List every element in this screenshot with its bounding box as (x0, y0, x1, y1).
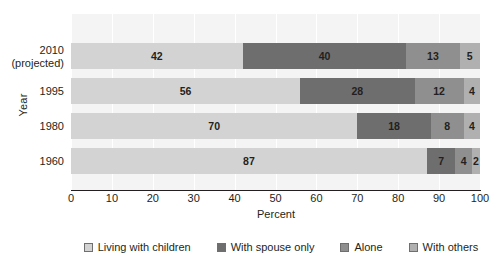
y-axis-tick-labels: 2010(projected)199519801960 (0, 40, 68, 190)
bar-value-label: 18 (388, 121, 400, 132)
bar-value-label: 2 (473, 156, 479, 167)
y-axis-tick-sublabel: (projected) (0, 57, 64, 70)
x-axis-tick-label: 100 (460, 192, 500, 204)
x-axis-title: Percent (71, 208, 481, 220)
x-axis-tick-label: 20 (133, 192, 173, 204)
x-axis-tick-label: 40 (215, 192, 255, 204)
bar-row: 5628124 (71, 78, 480, 104)
x-axis-tick-label: 10 (92, 192, 132, 204)
x-axis-tick-labels: 0102030405060708090100 (71, 192, 481, 208)
bar-segment: 8 (431, 113, 464, 139)
x-axis-line (71, 190, 481, 191)
bar-segment: 5 (460, 43, 480, 69)
y-axis-tick-label: 2010(projected) (0, 44, 64, 69)
bar-value-label: 5 (467, 51, 473, 62)
bar-segment: 70 (71, 113, 357, 139)
bar-segment: 4 (464, 78, 480, 104)
bar-segment: 56 (71, 78, 300, 104)
y-axis-tick-label: 1995 (0, 85, 64, 98)
y-axis-tick-label: 1980 (0, 120, 64, 133)
legend-item[interactable]: With others (409, 241, 479, 253)
bar-value-label: 87 (243, 156, 255, 167)
y-axis-tick-label: 1960 (0, 155, 64, 168)
x-axis-tick-label: 50 (256, 192, 296, 204)
bar-value-label: 13 (427, 51, 439, 62)
legend-swatch-icon (409, 243, 418, 252)
x-axis-tick-label: 90 (419, 192, 459, 204)
legend-label: Living with children (98, 241, 191, 253)
bar-segment: 40 (243, 43, 407, 69)
bar-value-label: 12 (433, 86, 445, 97)
bar-value-label: 70 (208, 121, 220, 132)
bar-value-label: 40 (319, 51, 331, 62)
stacked-bar-chart: Year 2010(projected)199519801960 4240135… (0, 0, 503, 266)
bar-value-label: 56 (180, 86, 192, 97)
bar-segment: 18 (357, 113, 431, 139)
bar-segment: 2 (472, 148, 480, 174)
x-axis-tick-label: 0 (51, 192, 91, 204)
bar-segment: 87 (71, 148, 427, 174)
legend-label: With spouse only (231, 241, 315, 253)
bar-value-label: 4 (461, 156, 467, 167)
legend-label: With others (423, 241, 479, 253)
bar-value-label: 42 (151, 51, 163, 62)
bar-segment: 4 (464, 113, 480, 139)
bar-value-label: 4 (469, 86, 475, 97)
legend-swatch-icon (340, 243, 349, 252)
legend-swatch-icon (217, 243, 226, 252)
x-axis-tick-label: 70 (337, 192, 377, 204)
bar-value-label: 8 (444, 121, 450, 132)
x-axis-tick-label: 30 (174, 192, 214, 204)
bar-segment: 28 (300, 78, 415, 104)
bar-value-label: 4 (469, 121, 475, 132)
bar-segment: 4 (455, 148, 471, 174)
bar-segment: 7 (427, 148, 456, 174)
bar-row: 87742 (71, 148, 480, 174)
x-axis-tick-label: 60 (296, 192, 336, 204)
legend-item[interactable]: Alone (340, 241, 382, 253)
bar-value-label: 7 (438, 156, 444, 167)
chart-legend: Living with childrenWith spouse onlyAlon… (71, 238, 491, 256)
legend-item[interactable]: Living with children (84, 241, 191, 253)
bar-row: 4240135 (71, 43, 480, 69)
bar-value-label: 28 (351, 86, 363, 97)
legend-label: Alone (354, 241, 382, 253)
x-axis-tick-label: 80 (378, 192, 418, 204)
bar-row: 701884 (71, 113, 480, 139)
bar-segment: 13 (406, 43, 459, 69)
plot-area: 4240135562812470188487742 (71, 14, 480, 190)
legend-swatch-icon (84, 243, 93, 252)
legend-item[interactable]: With spouse only (217, 241, 315, 253)
bar-segment: 42 (71, 43, 243, 69)
gridline (480, 14, 481, 190)
bar-segment: 12 (415, 78, 464, 104)
